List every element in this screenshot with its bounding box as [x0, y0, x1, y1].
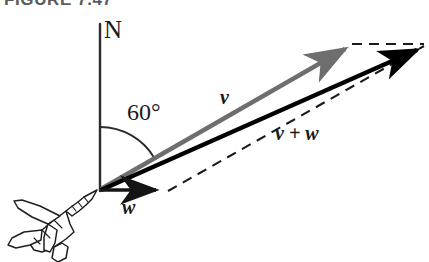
label-vector-v: v	[220, 86, 230, 108]
label-resultant: v + w	[275, 122, 319, 144]
jet-airplane-illustration	[8, 190, 97, 262]
label-vector-w: w	[122, 196, 136, 218]
label-north: N	[104, 16, 122, 43]
figure-container: FIGURE 7.47	[0, 0, 429, 262]
vector-diagram: N 60° v w v + w	[0, 0, 429, 262]
dashed-construction-line-lower	[168, 46, 424, 191]
angle-arc	[100, 127, 155, 159]
label-angle: 60°	[127, 99, 161, 125]
